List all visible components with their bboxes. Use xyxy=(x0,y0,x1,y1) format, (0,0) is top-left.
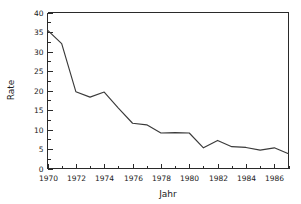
x-tick-label: 1974 xyxy=(95,174,114,183)
x-tick-label: 1986 xyxy=(265,174,284,183)
y-axis-title: Rate xyxy=(6,79,16,100)
y-tick-label: 15 xyxy=(34,106,44,115)
x-tick-label: 1976 xyxy=(124,174,143,183)
line-chart: 0510152025303540 19701972197419761978198… xyxy=(0,0,301,204)
x-tick-label: 1984 xyxy=(237,174,256,183)
x-axis-title: Jahr xyxy=(158,189,177,199)
x-tick-label: 1972 xyxy=(67,174,86,183)
x-tick-label: 1982 xyxy=(209,174,228,183)
y-tick-label: 25 xyxy=(34,67,44,76)
x-tick-label: 1970 xyxy=(39,174,58,183)
chart-figure: 0510152025303540 19701972197419761978198… xyxy=(0,0,301,204)
x-axis-tick-labels: 197019721974197619781980198219841986 xyxy=(39,174,284,183)
x-tick-label: 1978 xyxy=(152,174,171,183)
y-tick-label: 10 xyxy=(34,126,44,135)
y-tick-label: 30 xyxy=(34,48,44,57)
y-tick-label: 20 xyxy=(34,87,44,96)
y-tick-label: 40 xyxy=(34,9,44,18)
x-tick-label: 1980 xyxy=(180,174,199,183)
y-tick-label: 35 xyxy=(34,28,44,37)
y-tick-label: 5 xyxy=(39,145,44,154)
